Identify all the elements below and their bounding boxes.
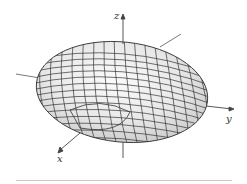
y-axis-label: y (225, 113, 232, 124)
ellipsoid-surface (30, 33, 215, 156)
y-axis-negative-tail (160, 34, 181, 47)
x-axis-label: x (57, 153, 63, 164)
z-axis-label: z (113, 10, 120, 21)
bottom-rule (16, 180, 232, 181)
y-axis-positive (206, 106, 232, 109)
y-axis-arrowhead (229, 107, 234, 111)
z-axis-arrowhead (121, 14, 125, 19)
figure-canvas: z y x (0, 0, 247, 184)
x-axis-positive (60, 133, 80, 150)
x-axis-negative (16, 74, 40, 78)
ellipsoid-diagram: z y x (0, 0, 247, 184)
